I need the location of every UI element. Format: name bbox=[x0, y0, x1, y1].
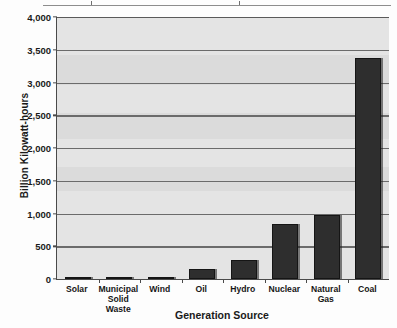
bar-slot bbox=[265, 17, 307, 279]
plot-area: 05001,0001,5002,0002,5003,0003,5004,000 bbox=[56, 17, 389, 280]
bar-slot bbox=[140, 17, 182, 279]
bar-slot bbox=[223, 17, 265, 279]
bar-slot bbox=[306, 17, 348, 279]
x-axis-label-coal: Coal bbox=[347, 284, 389, 294]
y-tick-label-2500: 2,500 bbox=[7, 110, 51, 121]
x-label-line: Municipal bbox=[98, 284, 140, 294]
x-axis-label-natural-gas: Natural Gas bbox=[305, 284, 347, 304]
bar-oil[interactable] bbox=[189, 269, 215, 279]
bar-chart-figure: Billion Kilowatt-hours 05001,0001,5002,0… bbox=[0, 0, 397, 328]
y-tick-label-2000: 2,000 bbox=[7, 143, 51, 154]
x-axis-label-solar: Solar bbox=[56, 284, 98, 294]
bar-wind[interactable] bbox=[148, 277, 174, 279]
x-axis-title: Generation Source bbox=[56, 309, 388, 321]
bar-slot bbox=[348, 17, 390, 279]
bar-hydro[interactable] bbox=[231, 260, 257, 279]
bar-municipal-solid-waste[interactable] bbox=[106, 277, 132, 279]
y-tick-label-1000: 1,000 bbox=[7, 208, 51, 219]
x-label-line: Oil bbox=[181, 284, 223, 294]
y-tick-label-500: 500 bbox=[7, 241, 51, 252]
x-tick-1 bbox=[99, 279, 100, 283]
y-tick-label-1500: 1,500 bbox=[7, 175, 51, 186]
bars-layer bbox=[57, 17, 389, 279]
x-tick-3 bbox=[182, 279, 183, 283]
top-divider-rule bbox=[43, 5, 391, 6]
x-label-line: Coal bbox=[347, 284, 389, 294]
x-tick-4 bbox=[223, 279, 224, 283]
bar-nuclear[interactable] bbox=[272, 224, 298, 279]
bar-slot bbox=[99, 17, 141, 279]
x-tick-7 bbox=[348, 279, 349, 283]
x-tick-2 bbox=[140, 279, 141, 283]
bar-coal[interactable] bbox=[355, 58, 381, 279]
x-label-line: Hydro bbox=[222, 284, 264, 294]
x-axis-label-wind: Wind bbox=[139, 284, 181, 294]
y-tick-label-4000: 4,000 bbox=[7, 12, 51, 23]
y-tick-label-3500: 3,500 bbox=[7, 44, 51, 55]
x-label-line: Nuclear bbox=[264, 284, 306, 294]
x-label-line: Natural Gas bbox=[305, 284, 347, 304]
bar-natural-gas[interactable] bbox=[314, 215, 340, 279]
x-tick-6 bbox=[306, 279, 307, 283]
x-label-line: Wind bbox=[139, 284, 181, 294]
x-axis-label-hydro: Hydro bbox=[222, 284, 264, 294]
x-axis-label-nuclear: Nuclear bbox=[264, 284, 306, 294]
bar-slot bbox=[182, 17, 224, 279]
x-label-line: Solar bbox=[56, 284, 98, 294]
x-axis-label-oil: Oil bbox=[181, 284, 223, 294]
x-tick-5 bbox=[265, 279, 266, 283]
y-tick-label-3000: 3,000 bbox=[7, 77, 51, 88]
y-tick-label-0: 0 bbox=[7, 274, 51, 285]
bar-solar[interactable] bbox=[65, 277, 91, 279]
bar-slot bbox=[57, 17, 99, 279]
